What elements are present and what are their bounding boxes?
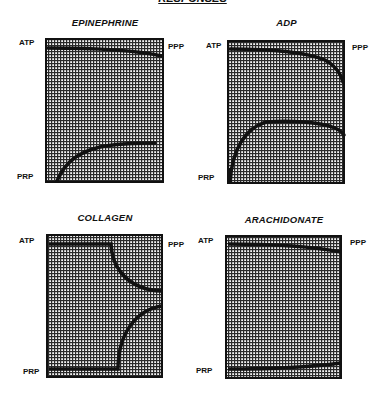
grid-box — [46, 39, 163, 182]
panel-epinephrine — [46, 39, 163, 182]
start-mark — [228, 168, 232, 182]
grid-box — [47, 235, 162, 377]
grid-box — [226, 236, 341, 378]
panel-arachidonate — [226, 236, 341, 378]
panel-collagen — [47, 235, 162, 377]
figure-canvas — [0, 0, 385, 396]
panel-adp — [228, 41, 344, 183]
